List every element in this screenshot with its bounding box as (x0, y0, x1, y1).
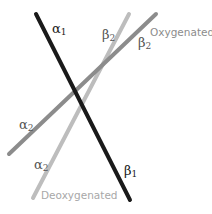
alpha2-oxy-sub: 2 (28, 123, 34, 133)
alpha2-oxy-label: α2 (19, 118, 34, 133)
beta2-oxy-label: β2 (138, 36, 151, 51)
alpha2-deoxy-base: α (34, 157, 43, 172)
oxygenated-label: Oxygenated (150, 27, 212, 38)
alpha1-label: α1 (52, 22, 67, 37)
alpha2-deoxy-sub: 2 (43, 163, 49, 173)
beta2-deoxy-base: β (102, 27, 110, 42)
beta2-oxy-base: β (138, 35, 146, 50)
alpha2-deoxy-label: α2 (34, 158, 49, 173)
alpha2-oxy-base: α (19, 117, 28, 132)
alpha1-sub: 1 (61, 27, 67, 37)
beta1-base: β (124, 163, 132, 178)
alpha1-base: α (52, 21, 61, 36)
beta1-label: β1 (124, 164, 137, 179)
beta2-deoxy-label: β2 (102, 28, 115, 43)
beta2-deoxy-sub: 2 (110, 33, 116, 43)
oxygenated-alpha2-beta2-line (9, 14, 156, 154)
beta1-sub: 1 (132, 169, 138, 179)
beta2-oxy-sub: 2 (146, 41, 152, 51)
deoxygenated-label: Deoxygenated (41, 190, 118, 201)
